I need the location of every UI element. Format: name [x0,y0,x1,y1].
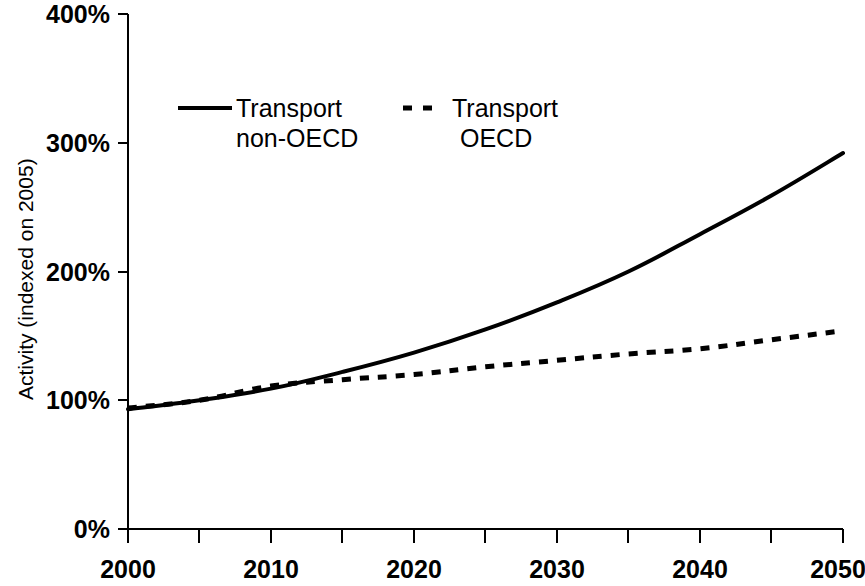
x-axis-tick-labels: 2000 2010 2020 2030 2040 2050 [100,555,865,583]
x-axis-ticks [128,529,843,543]
legend-label-0-line2: non-OECD [236,124,358,152]
x-tick-label-2050: 2050 [810,555,865,583]
y-axis-title: Activity (indexed on 2005) [14,158,37,400]
x-tick-label-2030: 2030 [529,555,585,583]
legend-label-0-line1: Transport [236,94,342,122]
chart-legend: Transport non-OECD Transport OECD [178,94,558,152]
x-tick-label-2000: 2000 [100,555,156,583]
y-tick-label-0: 0% [74,515,110,543]
y-tick-label-200: 200% [46,258,110,286]
y-axis-ticks [118,14,128,529]
y-axis-tick-labels: 400% 300% 200% 100% 0% [46,0,110,543]
y-tick-label-300: 300% [46,129,110,157]
chart-container: Activity (indexed on 2005) 400% 300% 200… [0,0,865,586]
legend-label-1-line2: OECD [460,124,532,152]
x-tick-label-2020: 2020 [386,555,442,583]
legend-label-1-line1: Transport [452,94,558,122]
x-tick-label-2040: 2040 [672,555,728,583]
series-line-transport-non-oecd [128,153,843,409]
x-tick-label-2010: 2010 [243,555,299,583]
line-chart: Activity (indexed on 2005) 400% 300% 200… [0,0,865,586]
y-tick-label-100: 100% [46,386,110,414]
y-tick-label-400: 400% [46,0,110,28]
